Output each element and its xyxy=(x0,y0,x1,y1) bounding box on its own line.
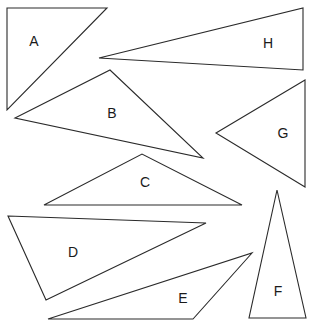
triangle-h-label: H xyxy=(263,35,273,51)
triangles-diagram: A H B G C D E F xyxy=(0,0,312,323)
triangle-h: H xyxy=(99,8,303,70)
triangle-a-label: A xyxy=(29,33,39,49)
triangle-f: F xyxy=(249,190,306,318)
triangle-g: G xyxy=(216,80,305,187)
triangle-e-label: E xyxy=(178,290,187,306)
triangle-c-label: C xyxy=(140,174,150,190)
triangle-b-label: B xyxy=(107,105,116,121)
triangle-g-label: G xyxy=(278,125,289,141)
triangle-d-label: D xyxy=(68,244,78,260)
triangle-b: B xyxy=(15,70,203,158)
triangle-f-label: F xyxy=(274,283,283,299)
triangle-c: C xyxy=(44,154,242,205)
triangle-g-shape xyxy=(216,80,305,187)
triangle-f-shape xyxy=(249,190,306,318)
